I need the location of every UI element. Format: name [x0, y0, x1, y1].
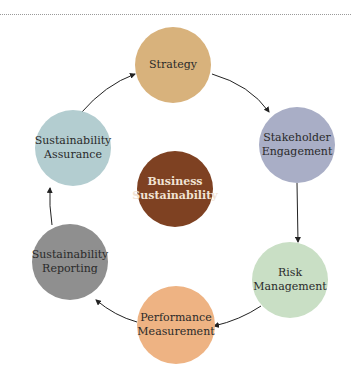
- arrow-assurance-to-strategy: [81, 74, 135, 113]
- arrow-stakeholder-to-risk: [297, 183, 298, 242]
- node-label: Management: [253, 280, 326, 294]
- node-label: Assurance: [35, 148, 112, 162]
- node-label: Sustainability: [35, 134, 112, 148]
- arrow-strategy-to-stakeholder: [212, 74, 269, 112]
- node-label: Strategy: [149, 58, 197, 72]
- node-label: Engagement: [262, 145, 333, 159]
- node-label: Sustainability: [32, 248, 109, 262]
- node-label: Performance: [137, 311, 214, 325]
- node-label: Stakeholder: [262, 131, 333, 145]
- node-risk-management: RiskManagement: [252, 242, 328, 318]
- node-business-sustainability: BusinessSustainability: [137, 151, 213, 227]
- node-label: Business: [132, 175, 217, 189]
- node-stakeholder-engagement: StakeholderEngagement: [259, 107, 335, 183]
- node-performance-measurement: PerformanceMeasurement: [137, 286, 215, 364]
- node-sustainability-reporting: SustainabilityReporting: [32, 224, 108, 300]
- arrow-risk-to-performance: [214, 306, 261, 326]
- node-label: Reporting: [32, 262, 109, 276]
- node-strategy: Strategy: [135, 27, 211, 103]
- arrow-reporting-to-assurance: [50, 188, 52, 225]
- node-label: Measurement: [137, 325, 214, 339]
- node-label: Sustainability: [132, 189, 217, 203]
- arrow-performance-to-reporting: [96, 300, 137, 322]
- node-label: Risk: [253, 266, 326, 280]
- node-sustainability-assurance: SustainabilityAssurance: [35, 110, 111, 186]
